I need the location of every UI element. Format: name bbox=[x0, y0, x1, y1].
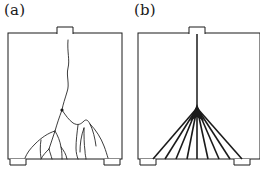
specimen-box-a bbox=[8, 33, 122, 159]
bottom-left-electrode-b bbox=[140, 159, 156, 165]
figure-root: (a) bbox=[0, 0, 260, 172]
branch-node-a bbox=[60, 108, 63, 111]
branch-a-right-finger-1 bbox=[76, 125, 78, 159]
trunk-a bbox=[62, 40, 69, 110]
branch-a-right-finger-2 bbox=[84, 128, 86, 159]
panel-b-drawing bbox=[130, 0, 260, 172]
branch-a-left-fork-2 bbox=[49, 149, 52, 159]
top-electrode-a bbox=[57, 27, 73, 34]
panel-a-drawing bbox=[0, 0, 130, 172]
bottom-right-electrode-b bbox=[234, 159, 250, 165]
bottom-left-electrode-a bbox=[10, 159, 26, 165]
discharge-tree-a bbox=[25, 40, 108, 159]
specimen-box-b bbox=[138, 33, 260, 159]
top-electrode-b bbox=[189, 27, 205, 34]
fan-ray-b-l4 bbox=[153, 108, 197, 159]
branch-a-right-finger-3 bbox=[80, 128, 84, 152]
figure-panel-b: (b) bbox=[130, 0, 260, 172]
branch-a-right-main bbox=[62, 110, 96, 146]
branch-a-left-fork-1 bbox=[41, 149, 49, 159]
fan-ray-b-r4 bbox=[197, 108, 242, 159]
bottom-right-electrode-a bbox=[104, 159, 120, 165]
branch-a-left-twig bbox=[40, 140, 41, 158]
branch-a-right-skirt bbox=[90, 124, 108, 158]
discharge-fan-b bbox=[153, 34, 242, 159]
branch-a-center-1 bbox=[55, 131, 62, 159]
figure-panel-a: (a) bbox=[0, 0, 130, 172]
